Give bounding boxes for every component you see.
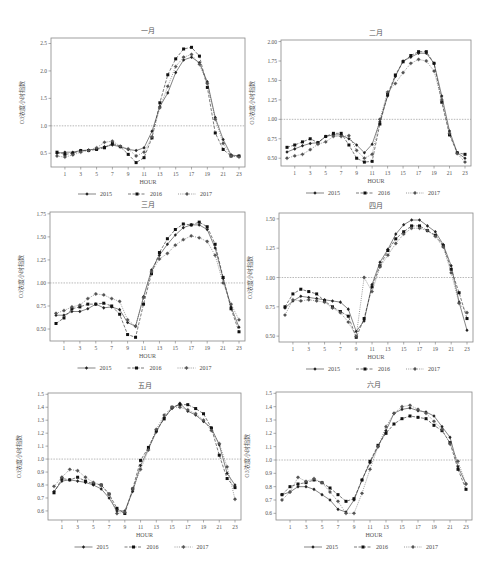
x-tick-label: 23: [464, 346, 470, 352]
x-tick-label: 17: [189, 171, 195, 177]
x-tick-label: 1: [60, 524, 63, 530]
y-tick-label: 1.25: [36, 257, 46, 263]
x-tick-label: 7: [339, 346, 342, 352]
square-marker: [286, 146, 289, 149]
series-2015: [54, 223, 240, 329]
series-2017: [54, 234, 241, 328]
x-tick-label: 13: [385, 346, 391, 352]
legend-label: 2016: [150, 191, 162, 197]
square-marker: [132, 546, 135, 549]
square-marker: [401, 417, 404, 420]
y-tick-label: 1.25: [265, 245, 275, 251]
square-marker: [293, 144, 296, 147]
y-axis-label: O3浓度小时指数: [248, 81, 256, 124]
series-2017: [280, 403, 468, 515]
diamond-marker: [166, 91, 169, 95]
y-tick-label: 1.5: [265, 390, 272, 396]
square-marker: [182, 222, 185, 225]
square-marker: [136, 193, 139, 196]
legend-label: 2015: [328, 366, 340, 372]
x-tick-label: 11: [138, 524, 144, 530]
square-marker: [198, 55, 201, 58]
x-tick-label: 15: [173, 171, 179, 177]
square-marker: [386, 249, 389, 252]
x-tick-label: 21: [447, 524, 453, 530]
x-tick-label: 13: [383, 524, 389, 530]
square-marker: [214, 243, 217, 246]
y-axis-label: O3浓度小时指数: [15, 435, 23, 478]
square-marker: [393, 423, 396, 426]
square-marker: [53, 491, 56, 494]
diamond-marker: [142, 146, 145, 150]
x-tick-label: 7: [340, 170, 343, 176]
legend: 201520162017: [304, 544, 438, 550]
square-marker: [86, 303, 89, 306]
square-marker: [347, 315, 350, 318]
square-marker: [190, 46, 193, 49]
series-2015: [52, 402, 236, 513]
square-marker: [103, 146, 106, 149]
x-axis-label: HOUR: [139, 353, 156, 359]
legend-label: 2016: [376, 544, 388, 550]
y-tick-label: 0.8: [265, 484, 272, 490]
legend-label: 2017: [426, 544, 438, 550]
square-marker: [361, 479, 364, 482]
square-marker: [166, 237, 169, 240]
series-2016: [281, 415, 468, 503]
x-tick-label: 1: [293, 170, 296, 176]
diamond-marker: [85, 366, 88, 370]
square-marker: [324, 135, 327, 138]
diamond-marker: [102, 306, 105, 310]
y-tick-label: 1.2: [265, 430, 272, 436]
square-marker: [394, 237, 397, 240]
x-tick-label: 1: [63, 345, 66, 351]
legend: 201520162017: [78, 365, 212, 371]
x-tick-label: 9: [126, 345, 129, 351]
diamond-marker: [313, 367, 316, 371]
x-tick-label: 1: [64, 171, 67, 177]
x-tick-label: 9: [123, 524, 126, 530]
square-marker: [94, 303, 97, 306]
square-marker: [182, 47, 185, 50]
y-tick-label: 0.7: [265, 497, 272, 503]
square-marker: [190, 223, 193, 226]
x-tick-label: 5: [323, 346, 326, 352]
square-marker: [214, 131, 217, 134]
diamond-marker: [465, 328, 468, 332]
square-marker: [158, 101, 161, 104]
legend: 201520162017: [306, 190, 440, 196]
legend-label: 2015: [100, 191, 112, 197]
square-marker: [56, 151, 59, 154]
chart-february: 二月0.500.751.001.251.501.752.001357911131…: [241, 26, 477, 206]
y-tick-label: 0.50: [265, 333, 275, 339]
diamond-marker: [418, 218, 421, 222]
square-marker: [194, 407, 197, 410]
square-marker: [466, 317, 469, 320]
square-marker: [143, 156, 146, 159]
y-tick-label: 0.6: [37, 508, 44, 514]
chart-january: 一月0.51.01.52.02.51357911131517192123O3浓度…: [11, 24, 251, 207]
x-tick-label: 19: [431, 524, 437, 530]
y-tick-label: 1.2: [37, 430, 44, 436]
x-tick-label: 9: [355, 346, 358, 352]
x-tick-label: 5: [321, 524, 324, 530]
y-tick-label: 1.1: [265, 444, 272, 450]
x-tick-label: 19: [201, 524, 207, 530]
square-marker: [337, 493, 340, 496]
x-tick-label: 15: [401, 346, 407, 352]
y-tick-label: 1.1: [37, 443, 44, 449]
square-marker: [364, 192, 367, 195]
x-tick-label: 13: [157, 171, 163, 177]
square-marker: [332, 132, 335, 135]
square-marker: [206, 225, 209, 228]
x-tick-label: 5: [95, 171, 98, 177]
square-marker: [222, 148, 225, 151]
x-axis-label: HOUR: [136, 532, 153, 538]
square-marker: [385, 432, 388, 435]
diamond-marker: [309, 142, 312, 146]
square-marker: [158, 251, 161, 254]
square-marker: [76, 476, 79, 479]
x-tick-label: 17: [189, 345, 195, 351]
square-marker: [118, 313, 121, 316]
y-tick-label: 1.0: [37, 456, 44, 462]
